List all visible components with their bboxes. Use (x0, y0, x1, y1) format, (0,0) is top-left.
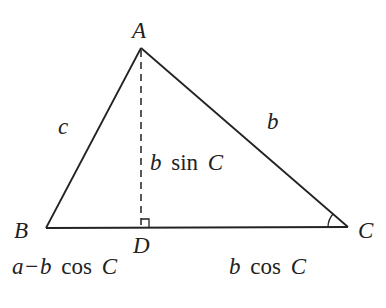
vertex-label-A: A (130, 18, 147, 43)
segment-BD-label: a − b cos C (12, 254, 118, 279)
vertex-label-D: D (132, 233, 150, 258)
segment-DC-label: b cos C (229, 254, 307, 279)
vertex-label-C: C (358, 218, 374, 243)
side-label-b: b (267, 109, 279, 134)
vertex-label-B: B (14, 218, 28, 243)
altitude-label: b sin C (150, 150, 224, 175)
triangle-diagram: A B C D c b b sin C a − b cos C b cos C (0, 0, 386, 308)
right-angle-mark (141, 219, 149, 228)
angle-C-arc (328, 214, 333, 227)
side-AC (141, 48, 348, 227)
side-BC (46, 227, 348, 228)
side-label-c: c (58, 114, 68, 139)
